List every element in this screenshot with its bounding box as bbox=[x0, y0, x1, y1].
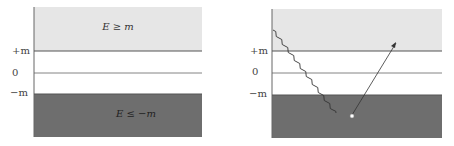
tick-plus-m: +m bbox=[12, 45, 30, 56]
tick-minus-m: −m bbox=[10, 87, 28, 98]
hole-marker bbox=[350, 114, 354, 118]
lower-band-label: E ≤ −m bbox=[115, 108, 156, 119]
upper-band-label: E ≥ m bbox=[101, 21, 134, 32]
tick-minus-m-right: −m bbox=[249, 88, 267, 99]
diagram-canvas: +m 0 −m E ≥ m E ≤ −m +m 0 −m bbox=[0, 0, 454, 146]
tick-zero: 0 bbox=[12, 67, 18, 78]
right-panel: +m 0 −m bbox=[249, 9, 442, 138]
negative-energy-band-right bbox=[272, 95, 442, 138]
left-panel: +m 0 −m E ≥ m E ≤ −m bbox=[10, 7, 202, 137]
positive-energy-band-right bbox=[272, 9, 442, 51]
tick-plus-m-right: +m bbox=[250, 45, 268, 56]
tick-zero-right: 0 bbox=[252, 66, 258, 77]
